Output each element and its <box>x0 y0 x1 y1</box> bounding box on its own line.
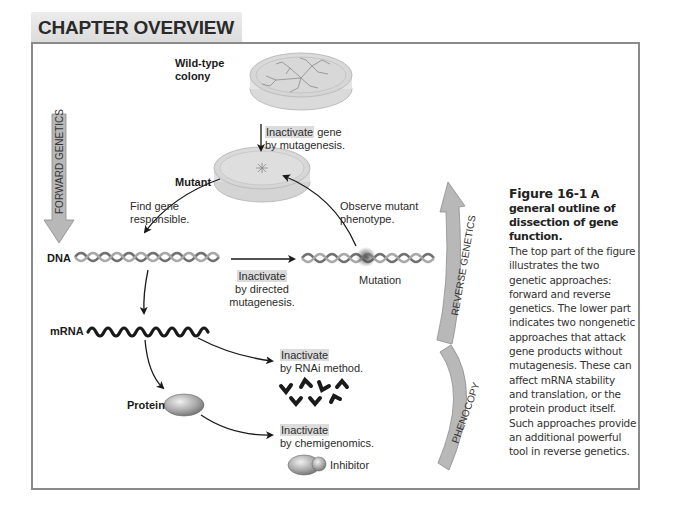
wild-type-label-line1: Wild-type <box>175 57 224 70</box>
find-gene-label: Find gene responsible. <box>130 200 189 226</box>
mrna-label: mRNA <box>50 325 84 338</box>
mutant-dish-icon <box>214 147 310 202</box>
caption-body: The top part of the figure illustrates t… <box>509 244 637 458</box>
directed-line3: mutagenesis. <box>229 296 295 309</box>
dna-helix-icon <box>75 253 219 261</box>
observe-phenotype-label: Observe mutant phenotype. <box>340 200 418 226</box>
chemigenomics-label: Inactivate by chemigenomics. <box>280 424 374 450</box>
observe-line2: phenotype. <box>340 213 418 226</box>
rnai-label: Inactivate by RNAi method. <box>280 349 363 375</box>
rnai-line2: by RNAi method. <box>280 362 363 375</box>
mutant-label: Mutant <box>175 176 211 189</box>
figure-caption: Figure 16-1 A general outline of dissect… <box>509 187 637 458</box>
dna-label: DNA <box>47 252 71 265</box>
translation-arrow <box>145 340 163 388</box>
find-gene-line2: responsible. <box>130 213 189 226</box>
caption-title: Figure 16-1 A general outline of dissect… <box>509 187 637 244</box>
mutagenesis-step-rest: gene <box>314 126 342 138</box>
find-gene-line1: Find gene <box>130 200 189 213</box>
mrna-strand-icon <box>88 328 208 336</box>
inactivate-highlight: Inactivate <box>280 424 329 436</box>
inhibitor-complex-icon <box>288 455 326 475</box>
mutation-label: Mutation <box>359 274 401 287</box>
protein-label: Protein <box>127 399 165 412</box>
wild-type-label-line2: colony <box>175 70 224 83</box>
inhibitor-label: Inhibitor <box>330 459 369 472</box>
figure-number: Figure 16-1 <box>509 186 587 201</box>
inactivate-highlight: Inactivate <box>237 270 286 282</box>
mutation-site-icon <box>356 247 376 267</box>
wild-type-label: Wild-type colony <box>175 57 224 83</box>
forward-genetics-label: FORWARD GENETICS <box>54 109 65 214</box>
chemigenomics-arrow <box>201 415 272 435</box>
chemigenomics-line2: by chemigenomics. <box>280 437 374 450</box>
observe-line1: Observe mutant <box>340 200 418 213</box>
protein-icon <box>164 394 204 416</box>
mutagenesis-step-line2: by mutagenesis. <box>265 139 345 152</box>
directed-mutagenesis-label: Inactivate by directed mutagenesis. <box>229 270 295 309</box>
mutagenesis-step-label: Inactivate gene by mutagenesis. <box>265 126 345 152</box>
directed-line2: by directed <box>229 283 295 296</box>
rnai-arrow <box>198 338 272 361</box>
transcription-arrow <box>144 270 148 313</box>
inactivate-highlight: Inactivate <box>280 349 329 361</box>
wild-type-colony-dish-icon <box>250 53 352 110</box>
inactivate-highlight: Inactivate <box>265 126 314 138</box>
rnai-fragments-icon <box>281 380 347 404</box>
